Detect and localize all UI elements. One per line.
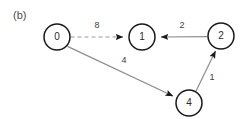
node-2[interactable]: 2: [208, 23, 234, 49]
edge-4-to-2-weight: 1: [209, 72, 214, 82]
graph-canvas: (b) 8 2 4 1 0 1: [0, 0, 248, 119]
node-1-label: 1: [139, 31, 145, 42]
node-4-label: 4: [186, 97, 192, 108]
edge-0-to-1-weight: 8: [94, 20, 99, 30]
edge-4-to-2: 1: [196, 51, 216, 91]
node-1[interactable]: 1: [129, 24, 155, 50]
node-0[interactable]: 0: [44, 24, 70, 50]
edge-0-to-1: 8: [71, 20, 124, 37]
node-2-label: 2: [218, 30, 224, 41]
figure-container: (b) 8 2 4 1 0 1: [0, 0, 248, 119]
edge-0-to-4-line: [68, 46, 174, 96]
edge-0-to-4-weight: 4: [121, 55, 126, 65]
node-0-label: 0: [54, 31, 60, 42]
edge-2-to-1-weight: 2: [179, 20, 184, 30]
node-4[interactable]: 4: [176, 90, 202, 116]
edge-2-to-1: 2: [161, 20, 208, 37]
edge-4-to-2-line: [196, 51, 216, 91]
edge-0-to-4: 4: [68, 46, 174, 96]
panel-label: (b): [13, 9, 26, 21]
